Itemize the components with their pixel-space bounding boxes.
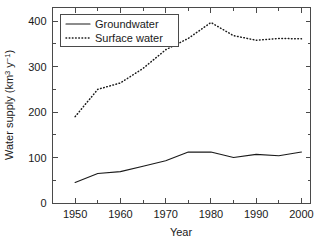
chart-canvas: 195019601970198019902000 0100200300400 Y…	[0, 0, 334, 241]
y-tick-label: 300	[28, 61, 46, 73]
legend-label-surface-water: Surface water	[95, 32, 163, 44]
series-line-groundwater	[75, 152, 301, 182]
x-axis-tick-labels: 195019601970198019902000	[63, 208, 314, 220]
x-tick-label: 1990	[244, 208, 268, 220]
x-tick-label: 2000	[289, 208, 313, 220]
x-tick-label: 1980	[199, 208, 223, 220]
y-axis-minor-ticks	[53, 44, 311, 180]
legend-label-groundwater: Groundwater	[95, 18, 159, 30]
water-supply-line-chart: 195019601970198019902000 0100200300400 Y…	[0, 0, 334, 241]
y-axis-title: Water supply (km3 y−1)	[3, 50, 16, 160]
y-tick-label: 100	[28, 152, 46, 164]
x-tick-label: 1950	[63, 208, 87, 220]
y-tick-label: 0	[40, 197, 46, 209]
x-axis-title: Year	[170, 226, 193, 238]
chart-legend: Groundwater Surface water	[61, 15, 179, 47]
y-tick-label: 200	[28, 106, 46, 118]
x-tick-label: 1960	[108, 208, 132, 220]
y-tick-label: 400	[28, 15, 46, 27]
x-tick-label: 1970	[153, 208, 177, 220]
y-axis-tick-labels: 0100200300400	[28, 15, 46, 209]
